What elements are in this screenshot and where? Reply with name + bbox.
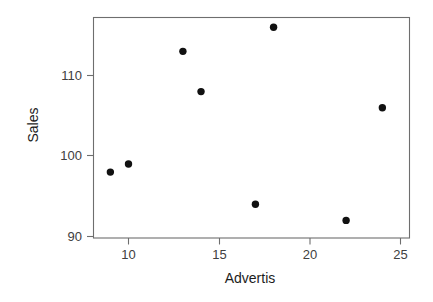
data-point	[107, 168, 114, 175]
y-axis-ticks	[87, 76, 94, 237]
plot-canvas: 110 100 90 10 15 20 25 Advertis Sales	[0, 0, 433, 302]
x-axis-tick-labels: 10 15 20 25	[121, 247, 407, 262]
x-tick-label-10: 10	[121, 247, 135, 262]
x-tick-label-20: 20	[303, 247, 317, 262]
y-axis-tick-labels: 110 100 90	[60, 68, 82, 244]
y-tick-label-100: 100	[60, 148, 82, 163]
y-tick-label-110: 110	[61, 68, 82, 83]
data-point-series	[107, 24, 386, 225]
x-tick-label-25: 25	[393, 247, 407, 262]
x-axis-ticks	[129, 238, 401, 245]
y-axis-title: Sales	[25, 107, 41, 142]
data-point	[252, 201, 259, 208]
data-point	[197, 88, 204, 95]
data-point	[179, 48, 186, 55]
plot-frame	[94, 18, 410, 239]
data-point	[270, 24, 277, 31]
x-axis-title: Advertis	[225, 270, 276, 286]
y-tick-label-90: 90	[68, 229, 82, 244]
scatter-plot-figure: 110 100 90 10 15 20 25 Advertis Sales	[0, 0, 433, 302]
data-point	[125, 160, 132, 167]
x-tick-label-15: 15	[212, 247, 226, 262]
data-point	[379, 104, 386, 111]
data-point	[342, 217, 349, 224]
